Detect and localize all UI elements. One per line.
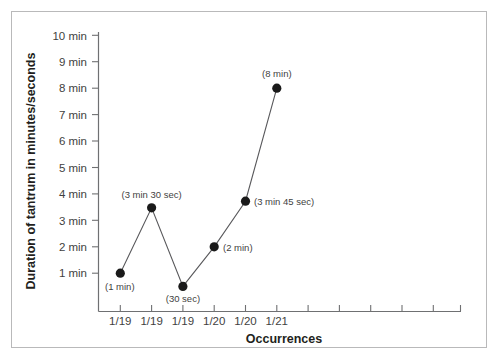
y-tick-label: 3 min <box>59 215 87 227</box>
x-tick-label: 1/20 <box>234 315 256 327</box>
y-tick-label: 6 min <box>59 135 87 147</box>
y-tick-marks <box>92 35 99 273</box>
data-point-label: (1 min) <box>105 281 135 292</box>
data-point[interactable] <box>272 84 281 93</box>
y-axis-group: 10 min 9 min 8 min 7 min 6 min 5 min 4 m… <box>24 30 99 312</box>
y-axis-title: Duration of tantrum in minutes/seconds <box>24 53 38 290</box>
data-point[interactable] <box>241 197 250 206</box>
data-point[interactable] <box>178 282 187 291</box>
data-point-label: (30 sec) <box>166 293 200 304</box>
x-tick-label: 1/20 <box>203 315 225 327</box>
y-tick-label: 7 min <box>59 109 87 121</box>
series-line-tantrum-duration <box>120 88 276 286</box>
y-tick-label: 1 min <box>59 267 87 279</box>
line-chart-plot: 10 min 9 min 8 min 7 min 6 min 5 min 4 m… <box>0 0 498 359</box>
y-tick-label: 10 min <box>52 30 87 42</box>
y-tick-label: 9 min <box>59 56 87 68</box>
x-tick-label: 1/21 <box>266 315 288 327</box>
data-series-group <box>116 84 282 291</box>
data-point-label: (2 min) <box>223 242 253 253</box>
data-point-annotations: (1 min) (3 min 30 sec) (30 sec) (2 min) … <box>105 68 314 304</box>
data-point-label: (3 min 30 sec) <box>122 189 182 200</box>
x-axis-group: 1/19 1/19 1/19 1/20 1/20 1/21 Occurrence… <box>99 305 462 346</box>
data-point[interactable] <box>210 242 219 251</box>
chart-figure: 10 min 9 min 8 min 7 min 6 min 5 min 4 m… <box>0 0 498 359</box>
y-tick-label: 2 min <box>59 241 87 253</box>
x-tick-labels: 1/19 1/19 1/19 1/20 1/20 1/21 <box>109 315 288 327</box>
y-tick-label: 4 min <box>59 188 87 200</box>
x-tick-marks <box>120 305 460 312</box>
x-tick-label: 1/19 <box>109 315 131 327</box>
y-tick-labels: 10 min 9 min 8 min 7 min 6 min 5 min 4 m… <box>52 30 87 280</box>
data-point[interactable] <box>147 203 156 212</box>
y-tick-label: 8 min <box>59 82 87 94</box>
data-point[interactable] <box>116 269 125 278</box>
data-point-label: (8 min) <box>262 68 292 79</box>
x-tick-label: 1/19 <box>140 315 162 327</box>
y-tick-label: 5 min <box>59 162 87 174</box>
x-axis-title: Occurrences <box>246 332 322 346</box>
x-tick-label: 1/19 <box>172 315 194 327</box>
data-point-label: (3 min 45 sec) <box>254 196 314 207</box>
